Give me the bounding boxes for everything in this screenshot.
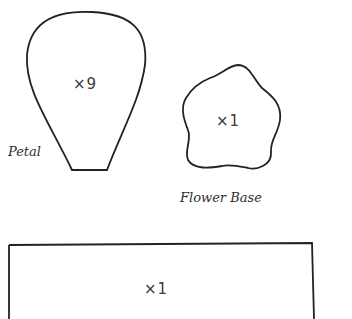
flower-base-count: ×1 (216, 112, 240, 130)
petal-count: ×9 (73, 75, 97, 93)
flower-base-label: Flower Base (180, 190, 262, 205)
petal-label: Petal (8, 144, 41, 159)
rectangle-count: ×1 (144, 280, 168, 298)
pattern-shapes (0, 0, 352, 319)
